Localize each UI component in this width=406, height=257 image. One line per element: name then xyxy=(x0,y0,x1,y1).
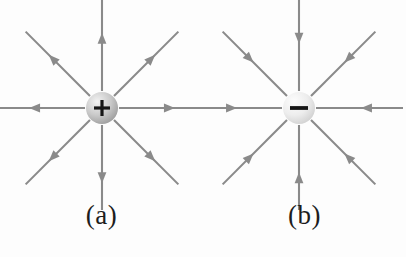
field-arrow-right xyxy=(164,104,175,113)
field-line-up-left xyxy=(26,32,90,96)
field-line-down-left xyxy=(223,120,287,184)
field-line-up-right xyxy=(114,32,178,96)
field-arrow-right xyxy=(361,104,372,113)
electric-field-figure: (a) (b) xyxy=(0,0,406,257)
panel-label-a: (a) xyxy=(0,198,203,232)
panel-negative-charge: (b) xyxy=(203,0,406,257)
field-line-down-right xyxy=(311,120,375,184)
field-arrow-up xyxy=(98,33,107,44)
field-line-up-right xyxy=(311,32,375,96)
field-arrow-down xyxy=(98,172,107,183)
field-line-down-right xyxy=(114,120,178,184)
field-arrow-down xyxy=(295,172,304,183)
field-diagram-positive xyxy=(0,0,203,210)
panel-positive-charge: (a) xyxy=(0,0,203,257)
field-diagram-negative xyxy=(203,0,406,210)
panel-label-b: (b) xyxy=(203,198,406,232)
field-line-down-left xyxy=(26,120,90,184)
field-arrow-left xyxy=(226,104,237,113)
field-line-up-left xyxy=(223,32,287,96)
field-arrow-left xyxy=(29,104,40,113)
field-arrow-up xyxy=(295,33,304,44)
